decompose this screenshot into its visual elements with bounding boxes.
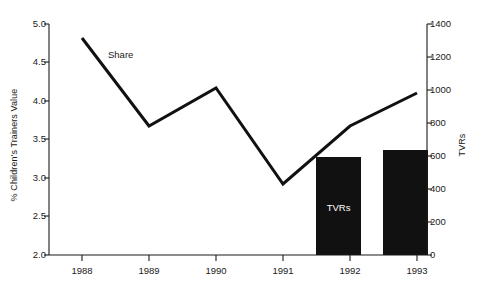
- y-axis-right-ticks: [427, 24, 432, 255]
- x-axis-ticks: [82, 255, 417, 261]
- line-series-label: Share: [108, 49, 133, 60]
- x-tick-1992: 1992: [320, 265, 380, 276]
- x-tick-1990: 1990: [186, 265, 246, 276]
- y-axis-left-ticks: [44, 24, 49, 255]
- chart-svg: [0, 0, 487, 293]
- x-tick-1989: 1989: [119, 265, 179, 276]
- x-tick-1993: 1993: [387, 265, 447, 276]
- chart-container: % Children's Trainers Value TVRs 2.0 2.5…: [0, 0, 487, 293]
- x-tick-1988: 1988: [52, 265, 112, 276]
- x-tick-1991: 1991: [253, 265, 313, 276]
